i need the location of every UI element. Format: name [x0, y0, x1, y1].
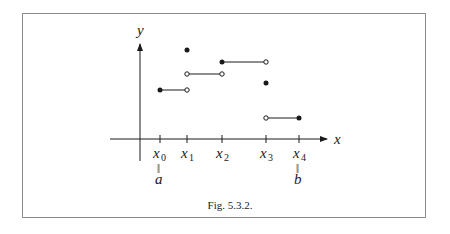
step-function-diagram: x y x 0 x 1 x 2 x 3 x 4 || a || b [0, 0, 450, 234]
tick-label-x1: x 1 [180, 145, 194, 163]
svg-text:x: x [152, 145, 160, 161]
svg-text:4: 4 [301, 152, 306, 163]
y-axis-label: y [135, 22, 144, 38]
alias-b: b [294, 171, 302, 187]
svg-text:0: 0 [161, 152, 166, 163]
svg-text:3: 3 [268, 152, 273, 163]
svg-text:x: x [292, 145, 300, 161]
x-axis-label: x [333, 131, 341, 147]
tick-label-x3: x 3 [259, 145, 273, 163]
step-segments [160, 62, 299, 118]
tick-label-x0: x 0 [152, 145, 166, 163]
tick-label-x2: x 2 [215, 145, 229, 163]
svg-text:x: x [180, 145, 188, 161]
svg-text:1: 1 [189, 152, 194, 163]
closed-points [158, 48, 302, 121]
figure-caption: Fig. 5.3.2. [208, 199, 253, 211]
svg-text:x: x [259, 145, 267, 161]
svg-text:x: x [215, 145, 223, 161]
svg-text:2: 2 [224, 152, 229, 163]
alias-a: a [155, 171, 163, 187]
open-points [185, 60, 268, 120]
tick-label-x4: x 4 [292, 145, 306, 163]
